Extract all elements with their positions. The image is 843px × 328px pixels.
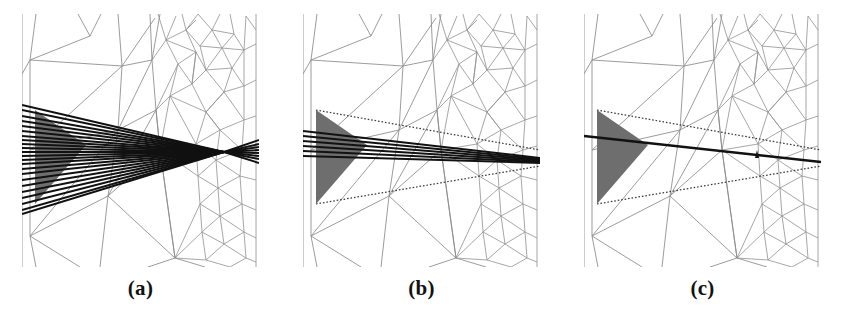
panel-b: (b) [281, 0, 562, 328]
panel-caption-c: (c) [562, 276, 843, 301]
figure-root: (a) [0, 0, 843, 328]
panel-caption-b: (b) [281, 276, 562, 301]
panel-a-canvas [0, 0, 281, 280]
panel-a: (a) [0, 0, 281, 328]
panel-b-canvas [281, 0, 562, 280]
ray-bundle-a [22, 105, 224, 214]
panel-caption-a: (a) [0, 276, 281, 301]
panel-c: (c) [562, 0, 843, 328]
source-triangle-c [597, 110, 648, 204]
panel-c-canvas [562, 0, 843, 280]
